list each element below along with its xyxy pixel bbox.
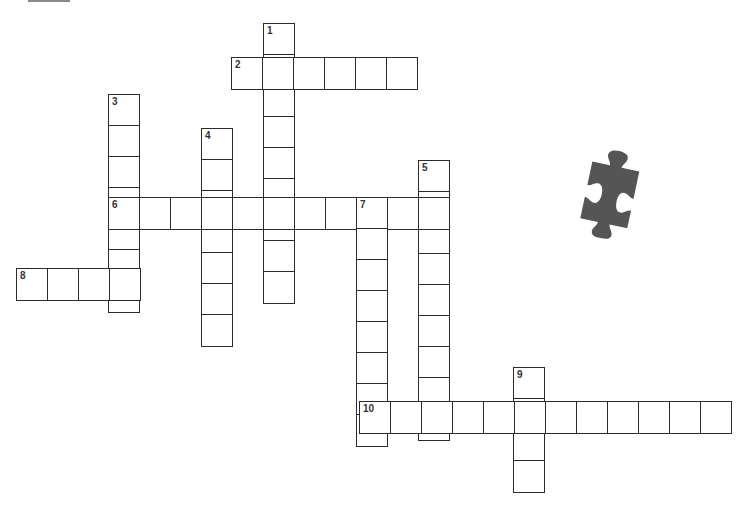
crossword-cell[interactable] xyxy=(355,57,387,90)
crossword-cell[interactable]: 9 xyxy=(513,367,545,400)
crossword-cell[interactable] xyxy=(576,401,608,434)
crossword-cell[interactable] xyxy=(325,197,357,230)
crossword-cell[interactable] xyxy=(452,401,484,434)
crossword-cell[interactable] xyxy=(47,268,79,301)
puzzle-piece-icon xyxy=(570,148,650,240)
clue-number: 1 xyxy=(267,25,273,36)
crossword-cell[interactable] xyxy=(263,240,295,273)
crossword-cell[interactable] xyxy=(545,401,577,434)
clue-number: 5 xyxy=(422,162,428,173)
crossword-cell[interactable] xyxy=(418,284,450,317)
clue-number: 2 xyxy=(235,59,241,70)
crossword-cell[interactable] xyxy=(638,401,670,434)
crossword-cell[interactable] xyxy=(513,460,545,493)
crossword-cell[interactable] xyxy=(356,321,388,354)
crossword-cell[interactable] xyxy=(356,259,388,292)
crossword-cell[interactable] xyxy=(514,401,546,434)
crossword-cell[interactable] xyxy=(201,283,233,316)
crossword-cell[interactable] xyxy=(232,197,264,230)
crossword-cell[interactable] xyxy=(390,401,422,434)
crossword-cell[interactable] xyxy=(139,197,171,230)
crossword-cell[interactable] xyxy=(294,197,326,230)
crossword-cell[interactable]: 7 xyxy=(356,197,388,230)
crossword-cell[interactable] xyxy=(262,57,294,90)
clue-number: 6 xyxy=(112,199,118,210)
crossword-cell[interactable] xyxy=(418,197,450,230)
crossword-cell[interactable] xyxy=(418,315,450,348)
clue-number: 7 xyxy=(360,199,366,210)
crossword-cell[interactable]: 8 xyxy=(16,268,48,301)
crossword-cell[interactable]: 5 xyxy=(418,160,450,193)
crossword-cell[interactable] xyxy=(387,197,419,230)
crossword-cell[interactable] xyxy=(607,401,639,434)
crossword-cell[interactable] xyxy=(78,268,110,301)
crossword-cell[interactable] xyxy=(263,116,295,149)
crossword-cell[interactable]: 6 xyxy=(108,197,140,230)
crossword-cell[interactable] xyxy=(421,401,453,434)
crossword-cell[interactable] xyxy=(386,57,418,90)
crossword-cell[interactable] xyxy=(201,159,233,192)
crossword-cell[interactable] xyxy=(293,57,325,90)
crossword-cell[interactable] xyxy=(263,147,295,180)
crossword-cell[interactable] xyxy=(418,346,450,379)
crossword-cell[interactable] xyxy=(356,290,388,323)
crossword-cell[interactable] xyxy=(356,228,388,261)
crossword-cell[interactable]: 3 xyxy=(108,94,140,127)
crossword-cell[interactable] xyxy=(263,197,295,230)
crossword-cell[interactable]: 2 xyxy=(231,57,263,90)
crossword-cell[interactable]: 4 xyxy=(201,128,233,161)
crossword-cell[interactable] xyxy=(201,314,233,347)
crossword-cell[interactable] xyxy=(324,57,356,90)
clue-number: 10 xyxy=(363,403,374,414)
crossword-cell[interactable] xyxy=(418,253,450,286)
crossword-cell[interactable]: 10 xyxy=(359,401,391,434)
crossword-grid: 12345678910 xyxy=(0,0,742,519)
clue-number: 3 xyxy=(112,96,118,107)
crossword-cell[interactable] xyxy=(263,271,295,304)
crossword-cell[interactable] xyxy=(201,252,233,285)
crossword-cell[interactable] xyxy=(170,197,202,230)
crossword-cell[interactable] xyxy=(669,401,701,434)
crossword-cell[interactable]: 1 xyxy=(263,23,295,56)
crossword-cell[interactable] xyxy=(108,125,140,158)
crossword-cell[interactable] xyxy=(483,401,515,434)
clue-number: 4 xyxy=(205,130,211,141)
clue-number: 8 xyxy=(20,270,26,281)
crossword-cell[interactable] xyxy=(108,156,140,189)
crossword-cell[interactable] xyxy=(109,268,141,301)
crossword-cell[interactable] xyxy=(700,401,732,434)
crossword-cell[interactable] xyxy=(356,352,388,385)
crossword-cell[interactable] xyxy=(201,197,233,230)
clue-number: 9 xyxy=(517,369,523,380)
